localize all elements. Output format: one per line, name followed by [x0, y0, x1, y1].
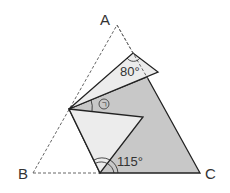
angle-label-80: 80° [120, 64, 140, 79]
vertex-label-a: A [100, 11, 110, 28]
geometry-diagram: ㄱ A B C 80° 115° [0, 0, 230, 193]
angle-label-115: 115° [117, 154, 143, 169]
unknown-angle-label: ㄱ [101, 101, 107, 108]
vertex-label-b: B [18, 165, 28, 182]
vertex-label-c: C [205, 165, 216, 182]
